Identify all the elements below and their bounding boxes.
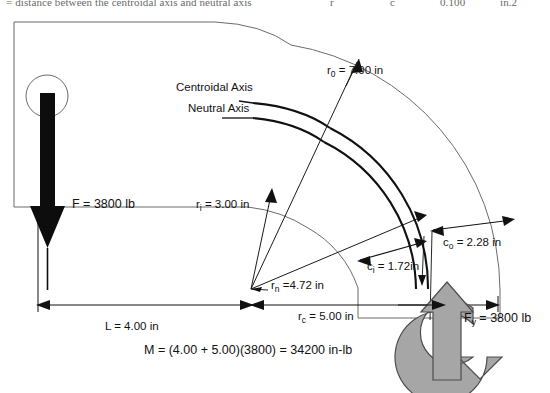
force-Fy-sub: y (472, 317, 476, 327)
figure-canvas: = distance between the centroidal axis a… (0, 0, 550, 393)
r-centroid-rest: = 5.00 in (306, 310, 354, 322)
r-centroid-sub: c (302, 315, 306, 325)
r-neutral-rest: =4.72 in (280, 279, 324, 291)
length-L-rest: = 4.00 in (111, 320, 159, 332)
r-outer-dimension (251, 59, 363, 289)
r-outer-sub: 0 (331, 69, 336, 79)
r-outer-label: r0 = 7.00 in (327, 64, 383, 77)
moment-base: M (144, 343, 154, 357)
neutral-axis-label: Neutral Axis (188, 102, 249, 115)
r-inner-dimension (251, 188, 277, 289)
c-outer-base: c (443, 236, 449, 248)
c-inner-rest: = 1.72in (375, 260, 419, 272)
c-outer-dimension (430, 216, 515, 236)
force-F-base: F (72, 197, 80, 211)
r-centroid-label: rc = 5.00 in (298, 310, 354, 323)
r-outer-rest: = 7.00 in (336, 64, 384, 76)
c-outer-label: co = 2.28 in (443, 236, 501, 249)
r-inner-label: ri = 3.00 in (196, 198, 249, 211)
moment-rest: = (4.00 + 5.00)(3800) = 34200 in-lb (154, 343, 352, 357)
r-neutral-sub: n (275, 284, 280, 294)
r-neutral-label: rn =4.72 in (271, 279, 324, 292)
c-inner-dimension (357, 232, 432, 320)
length-L-label: L = 4.00 in (105, 320, 159, 333)
moment-equation-label: M = (4.00 + 5.00)(3800) = 34200 in-lb (144, 343, 352, 357)
r-inner-sub: i (200, 203, 202, 213)
force-Fy-rest: = 3800 lb (476, 311, 531, 325)
force-F-label: F = 3800 lb (72, 197, 135, 211)
r-inner-rest: = 3.00 in (202, 198, 250, 210)
down-arrow-icon (30, 93, 65, 290)
centroidal-axis-label: Centroidal Axis (176, 81, 253, 94)
c-inner-sub: i (373, 265, 375, 275)
force-Fy-base: F (464, 311, 472, 325)
force-Fy-label: Fy = 3800 lb (464, 311, 531, 325)
c-inner-base: c (367, 260, 373, 272)
c-outer-sub: o (449, 241, 454, 251)
force-F-rest: = 3800 lb (80, 197, 135, 211)
c-inner-label: ci = 1.72in (367, 260, 419, 273)
c-outer-rest: = 2.28 in (453, 236, 501, 248)
